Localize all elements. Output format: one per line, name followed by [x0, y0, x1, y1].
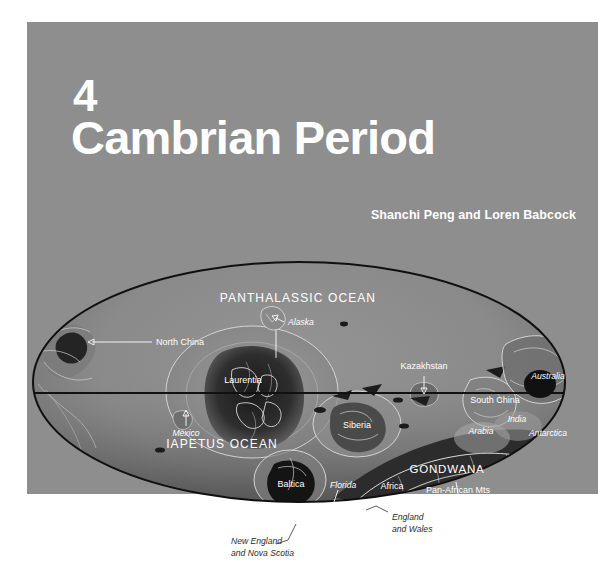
map-svg: PANTHALASSIC OCEAN IAPETUS OCEAN GONDWAN…: [0, 244, 598, 584]
paleogeographic-map: PANTHALASSIC OCEAN IAPETUS OCEAN GONDWAN…: [0, 244, 598, 584]
region-label-africa: Africa: [380, 481, 403, 491]
region-label-australia: Australia: [530, 371, 565, 381]
title-block: 4 Cambrian Period Shanchi Peng and Loren…: [27, 22, 598, 252]
ocean-label-panthalassic: PANTHALASSIC OCEAN: [220, 291, 376, 305]
ocean-label-iapetus: IAPETUS OCEAN: [166, 437, 278, 451]
continent-label-kazakhstan: Kazakhstan: [400, 361, 447, 371]
page-title: Cambrian Period: [71, 114, 435, 161]
region-label-alaska: Alaska: [287, 317, 314, 327]
region-label-mexico: Mexico: [172, 428, 199, 438]
continent-label-laurentia: Laurentia: [224, 375, 262, 385]
authors-byline: Shanchi Peng and Loren Babcock: [371, 208, 576, 222]
region-label-india: India: [508, 414, 527, 424]
continent-label-south-china: South China: [470, 395, 520, 405]
outside-label-england-wales-line1: England: [392, 512, 424, 522]
continent-label-north-china: North China: [156, 337, 204, 347]
region-label-florida: Florida: [330, 480, 356, 490]
page-canvas: 4 Cambrian Period Shanchi Peng and Loren…: [0, 0, 598, 584]
continent-label-baltica: Baltica: [277, 479, 304, 489]
continent-label-siberia: Siberia: [343, 420, 371, 430]
region-label-arabia: Arabia: [468, 426, 494, 436]
outside-label-new-england-line1: New England: [231, 536, 282, 546]
continent-label-gondwana: GONDWANA: [410, 463, 485, 475]
region-label-antarctica: Antarctica: [528, 428, 567, 438]
region-label-pan-african-mts: Pan-African Mts: [426, 485, 491, 495]
outside-label-england-wales-line2: and Wales: [392, 524, 433, 534]
region-label-south-america: South America: [317, 512, 373, 522]
outside-label-new-england-line2: and Nova Scotia: [231, 548, 294, 558]
